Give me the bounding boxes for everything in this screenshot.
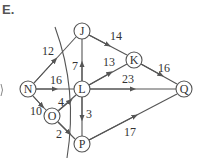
svg-text:Q: Q: [180, 82, 189, 96]
weight-P-Q: 17: [124, 125, 136, 139]
node-N: N: [20, 81, 36, 97]
weight-N-O: 10: [30, 104, 42, 118]
node-K: K: [126, 52, 142, 68]
svg-text:O: O: [48, 109, 57, 123]
svg-text:K: K: [130, 53, 139, 67]
node-Q: Q: [176, 81, 192, 97]
weight-L-K: 13: [103, 55, 115, 69]
edges: [33, 35, 177, 140]
node-O: O: [44, 108, 60, 124]
node-L: L: [74, 81, 90, 97]
network-diagram: E. 12 16 10 4 2 7 3: [0, 0, 202, 161]
svg-text:N: N: [24, 82, 33, 96]
node-P: P: [74, 136, 90, 152]
node-J: J: [74, 23, 90, 39]
weight-K-Q: 16: [158, 61, 170, 75]
weight-O-P: 2: [56, 127, 62, 141]
weight-L-J: 7: [72, 59, 78, 73]
weight-J-K: 14: [110, 29, 122, 43]
svg-text:J: J: [80, 24, 85, 38]
weight-N-L: 16: [50, 73, 62, 87]
problem-label: E.: [2, 2, 14, 17]
weight-L-Q: 23: [122, 72, 134, 86]
weight-L-P: 3: [86, 107, 92, 121]
weight-O-L: 4: [58, 95, 64, 109]
svg-text:L: L: [78, 82, 85, 96]
weight-N-J: 12: [42, 44, 54, 58]
edge-fragment: [1, 84, 3, 96]
svg-text:P: P: [79, 137, 86, 151]
